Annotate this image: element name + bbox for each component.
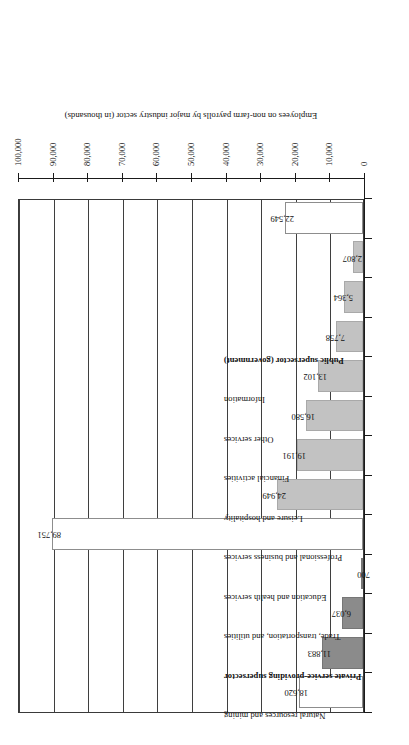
bar-value-label: 89,751	[38, 530, 62, 540]
bar-value-label: 18,620	[284, 688, 308, 698]
bar-value-label: 16,580	[291, 412, 315, 422]
gridline	[192, 200, 193, 712]
gridline	[123, 200, 124, 712]
value-axis-tick-label: 0	[359, 162, 369, 166]
category-label-8: Leisure and hospitality	[224, 514, 374, 524]
category-axis-tick	[365, 277, 372, 278]
bar-value-label: 2,807	[343, 254, 362, 264]
category-label-7: Professional and business services	[224, 553, 374, 563]
value-axis-tick	[364, 173, 365, 182]
category-axis-tick	[365, 198, 372, 199]
value-axis-tick	[260, 173, 261, 182]
value-axis-tick	[87, 173, 88, 182]
category-label-3: Natural resources and mining	[224, 711, 374, 721]
value-axis-tick-label: 60,000	[151, 143, 161, 166]
bar-value-label: 22,549	[270, 214, 294, 224]
category-label-12: Public supersector (government)	[224, 356, 374, 366]
value-axis-tick-label: 80,000	[82, 143, 92, 166]
gridline	[157, 200, 158, 712]
value-axis-tick-label: 70,000	[117, 143, 127, 166]
bar-value-label: 11,883	[308, 649, 331, 659]
category-label-5: Trade, transportation, and utilities	[224, 632, 374, 642]
value-axis-tick	[295, 173, 296, 182]
value-axis: 010,00020,00030,00040,00050,00060,00070,…	[18, 178, 364, 179]
value-axis-tick	[191, 173, 192, 182]
gridline	[88, 200, 89, 712]
value-axis-tick	[156, 173, 157, 182]
bar-12	[285, 202, 363, 234]
value-axis-tick-label: 50,000	[186, 143, 196, 166]
bar-value-label: 7,758	[326, 333, 345, 343]
value-axis-tick-label: 20,000	[290, 143, 300, 166]
value-axis-tick-label: 30,000	[255, 143, 265, 166]
bar-value-label: 6,037	[332, 609, 351, 619]
category-label-9: Financial activities	[224, 474, 374, 484]
value-axis-tick-label: 40,000	[221, 143, 231, 166]
category-axis-tick	[365, 238, 372, 239]
rotated-chart-canvas: 18,62011,8836,03770089,75124,94919,19116…	[0, 0, 409, 745]
value-axis-tick	[226, 173, 227, 182]
value-axis-tick	[18, 173, 19, 182]
value-axis-tick	[329, 173, 330, 182]
bar-value-label: 24,949	[262, 491, 286, 501]
category-label-4: Private service-providing supersector	[224, 672, 374, 682]
value-axis-tick-label: 100,000	[13, 138, 23, 166]
value-axis-tick	[122, 173, 123, 182]
value-axis-tick	[53, 173, 54, 182]
gridline	[54, 200, 55, 712]
gridline	[19, 200, 20, 712]
value-axis-tick-label: 10,000	[324, 143, 334, 166]
category-label-11: Information	[224, 395, 374, 405]
bar-value-label: 13,102	[303, 372, 327, 382]
category-axis-tick	[365, 317, 372, 318]
value-axis-title: Employees on non-farm payrolls by major …	[18, 111, 364, 121]
category-label-10: Other services	[224, 435, 374, 445]
chart-screenshot: 18,62011,8836,03770089,75124,94919,19116…	[0, 0, 409, 745]
bar-value-label: 19,191	[282, 451, 306, 461]
bar-value-label: 5,364	[334, 293, 353, 303]
category-label-6: Education and health services	[224, 593, 374, 603]
value-axis-tick-label: 90,000	[48, 143, 58, 166]
